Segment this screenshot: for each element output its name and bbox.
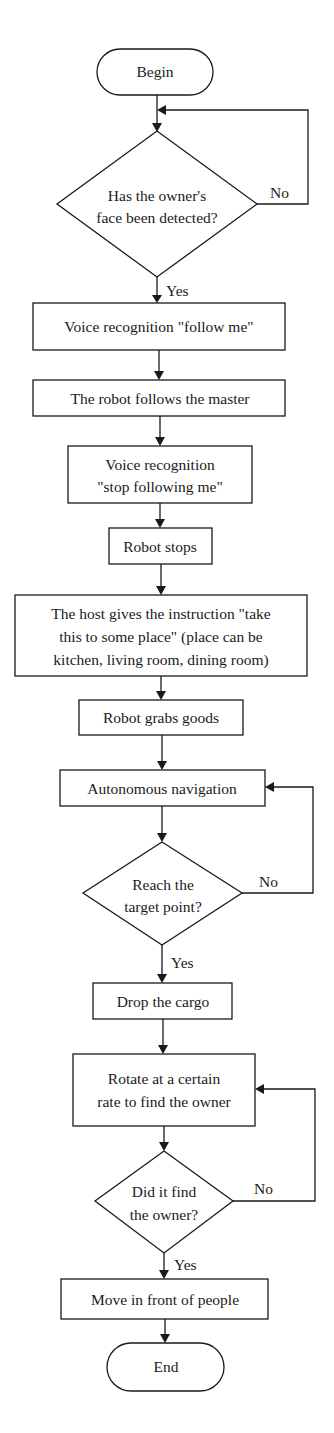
- process-label: Voice recognition "follow me": [64, 318, 253, 335]
- begin-label: Begin: [136, 63, 173, 80]
- process-robot-stops: Robot stops: [109, 528, 212, 564]
- decision-line-1: Reach the: [132, 876, 194, 893]
- process-line-1: The host gives the instruction "take: [51, 605, 271, 622]
- arrow-head-icon: [158, 1045, 168, 1054]
- arrow-head-icon: [155, 437, 165, 446]
- process-line-1: Rotate at a certain: [108, 1070, 221, 1087]
- decision-reach-target: Reach the target point?: [83, 842, 242, 945]
- arrow-head-icon: [157, 833, 167, 842]
- arrow-head-icon: [159, 1142, 169, 1151]
- decision-line-1: Did it find: [132, 1183, 197, 1200]
- arrow-head-icon: [155, 519, 165, 528]
- process-rotate-find-owner: Rotate at a certain rate to find the own…: [73, 1054, 255, 1126]
- process-voice-follow: Voice recognition "follow me": [33, 303, 285, 350]
- arrow-head-icon: [160, 1334, 170, 1343]
- arrow-head-icon: [255, 1084, 264, 1094]
- process-autonomous-navigation: Autonomous navigation: [60, 770, 265, 806]
- process-drop-cargo: Drop the cargo: [93, 983, 232, 1019]
- arrow-head-icon: [157, 761, 167, 770]
- process-robot-grabs: Robot grabs goods: [79, 700, 243, 735]
- flowchart: Begin No Has the owner's face been detec…: [0, 0, 334, 1433]
- process-label: Robot stops: [123, 538, 197, 555]
- arrow-head-icon: [156, 586, 166, 595]
- decision-find-owner: Did it find the owner?: [95, 1151, 233, 1253]
- begin-terminal: Begin: [97, 49, 213, 95]
- edge-label-yes: Yes: [166, 282, 189, 299]
- edge-label-no: No: [259, 873, 278, 890]
- arrow-head-icon: [152, 295, 162, 303]
- process-voice-stop: Voice recognition "stop following me": [68, 446, 252, 503]
- process-line-3: kitchen, living room, dining room): [53, 651, 268, 669]
- edge-label-yes: Yes: [171, 954, 194, 971]
- decision-line-2: face been detected?: [96, 209, 217, 226]
- process-line-2: this to some place" (place can be: [59, 628, 263, 646]
- arrow-head-icon: [157, 974, 167, 983]
- edge-label-yes: Yes: [174, 1256, 197, 1273]
- arrow-head-icon: [156, 691, 166, 700]
- edge-label-no: No: [254, 1180, 273, 1197]
- process-label: The robot follows the master: [70, 390, 250, 407]
- decision-line-1: Has the owner's: [108, 187, 206, 204]
- process-label: Robot grabs goods: [103, 709, 219, 726]
- decision-line-2: the owner?: [130, 1206, 199, 1223]
- end-label: End: [154, 1358, 179, 1375]
- process-label: Move in front of people: [91, 1291, 239, 1308]
- process-line-2: rate to find the owner: [97, 1093, 231, 1110]
- process-line-1: Voice recognition: [105, 456, 215, 473]
- process-line-2: "stop following me": [97, 478, 222, 495]
- decision-face-detected: Has the owner's face been detected?: [57, 131, 257, 277]
- arrow-head-icon: [154, 371, 164, 380]
- process-label: Drop the cargo: [117, 993, 210, 1010]
- arrow-head-icon: [157, 105, 166, 115]
- process-move-front: Move in front of people: [61, 1279, 268, 1319]
- arrow-head-icon: [265, 782, 274, 792]
- decision-line-2: target point?: [124, 898, 202, 915]
- end-terminal: End: [107, 1343, 224, 1391]
- process-label: Autonomous navigation: [87, 780, 237, 797]
- process-host-instruction: The host gives the instruction "take thi…: [15, 595, 307, 676]
- edge-label-no: No: [270, 184, 289, 201]
- process-robot-follows: The robot follows the master: [33, 380, 285, 416]
- arrow-head-icon: [159, 1270, 169, 1279]
